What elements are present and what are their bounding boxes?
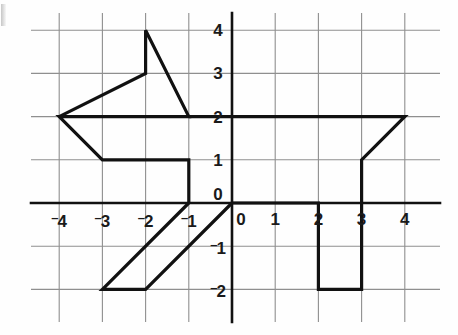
x-tick-label-0: 0 xyxy=(236,211,245,228)
dog-outline-head xyxy=(59,30,189,203)
grid-lines xyxy=(31,13,440,322)
y-tick-label-1: 1 xyxy=(213,151,222,168)
y-tick-label-neg2: –2 xyxy=(210,279,226,300)
y-tick-label-0: 0 xyxy=(213,186,222,203)
x-tick-label-2: 2 xyxy=(314,211,323,228)
x-tick-label-neg1: –1 xyxy=(181,209,197,230)
x-tick-label-4: 4 xyxy=(400,211,409,228)
axis-lines xyxy=(31,13,440,322)
x-tick-label-neg3: –3 xyxy=(95,209,111,230)
y-tick-label-neg1: –1 xyxy=(210,236,226,257)
y-tick-label-3: 3 xyxy=(213,65,222,82)
coordinate-plane-figure: –4–3–2–101234–2–101234 xyxy=(0,0,458,335)
graph-canvas xyxy=(0,0,458,335)
x-tick-label-1: 1 xyxy=(270,211,279,228)
x-tick-label-3: 3 xyxy=(357,211,366,228)
x-tick-label-neg4: –4 xyxy=(51,209,67,230)
y-tick-label-2: 2 xyxy=(213,108,222,125)
y-tick-label-4: 4 xyxy=(213,22,222,39)
x-tick-label-neg2: –2 xyxy=(138,209,154,230)
